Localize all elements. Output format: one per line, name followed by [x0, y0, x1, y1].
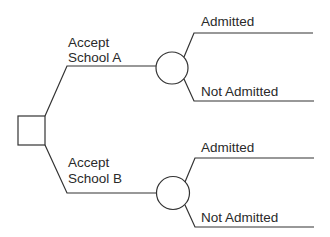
outcome-label-b-admitted: Admitted	[201, 140, 254, 155]
outcome-label-a-admitted: Admitted	[201, 14, 254, 29]
branch-label-b-line1: Accept	[68, 155, 110, 170]
chance-node-b	[157, 177, 190, 210]
outcome-line-b-admitted	[185, 158, 314, 182]
outcome-line-a-admitted	[184, 33, 313, 57]
branch-label-a-line2: School A	[68, 50, 121, 65]
branch-school-b: Accept School B Admitted Not Admitted	[45, 140, 314, 227]
outcome-label-b-not-admitted: Not Admitted	[201, 210, 278, 225]
branch-line-a	[45, 66, 156, 116]
branch-label-b-line2: School B	[68, 171, 122, 186]
branch-school-a: Accept School A Admitted Not Admitted	[45, 14, 314, 116]
branch-label-a-line1: Accept	[68, 35, 110, 50]
outcome-label-a-not-admitted: Not Admitted	[201, 84, 278, 99]
decision-node	[18, 116, 45, 145]
decision-tree-diagram: Accept School A Admitted Not Admitted Ac…	[0, 0, 330, 237]
chance-node-a	[156, 52, 188, 84]
